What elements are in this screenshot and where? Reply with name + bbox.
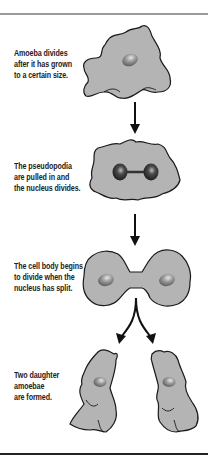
nucleus-right <box>144 164 159 181</box>
amoeba-cell-2 <box>90 140 180 200</box>
bottom-rule <box>0 453 208 455</box>
nucleus <box>94 377 107 387</box>
nucleus-left <box>113 164 128 181</box>
daughter-amoeba-right <box>151 351 198 432</box>
amoeba-cell-3 <box>83 250 190 306</box>
amoeba-cell-1 <box>84 26 171 99</box>
split-arrow-icon <box>116 298 156 344</box>
arrow-down-icon <box>130 214 140 246</box>
arrow-down-icon <box>130 102 140 134</box>
amoeba-diagram <box>0 0 208 461</box>
daughter-amoeba-left <box>70 350 117 432</box>
nucleus <box>163 377 176 387</box>
